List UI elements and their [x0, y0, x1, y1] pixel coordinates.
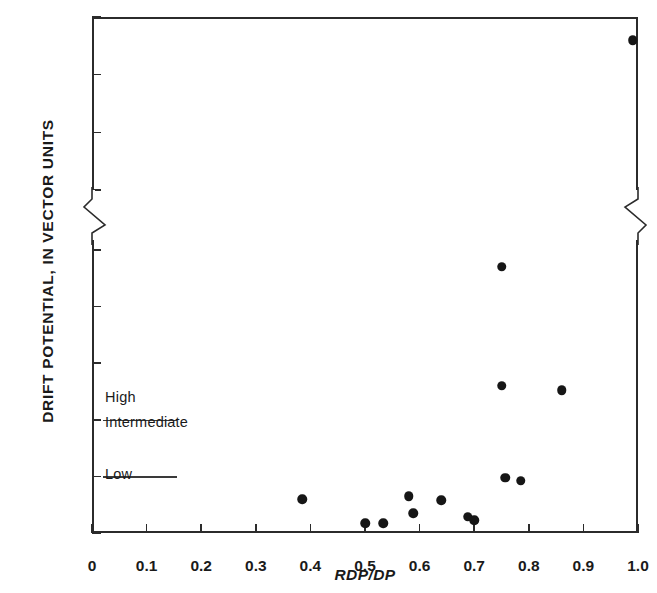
- data-point: [378, 518, 388, 528]
- x-tick: [91, 524, 93, 533]
- data-point: [437, 496, 447, 506]
- data-point: [516, 476, 526, 486]
- data-point: [628, 35, 638, 45]
- band-label-low: Low: [105, 466, 132, 482]
- data-point: [360, 518, 370, 528]
- data-point: [497, 262, 507, 272]
- x-tick: [473, 524, 475, 533]
- axis-top: [92, 17, 638, 19]
- data-point: [297, 494, 307, 504]
- x-tick: [200, 524, 202, 533]
- band-label-intermediate: Intermediate: [105, 414, 188, 430]
- data-point: [404, 491, 414, 501]
- axis-break-symbol-right: [621, 185, 647, 247]
- y-tick: [92, 249, 101, 251]
- data-point: [469, 516, 479, 526]
- x-tick: [583, 524, 585, 533]
- y-tick: [92, 16, 101, 18]
- axis-right: [636, 17, 638, 533]
- x-tick: [255, 524, 257, 533]
- x-tick: [528, 524, 530, 533]
- y-tick: [92, 532, 101, 534]
- plot-area: 020040060080010001500200025003000 00.10.…: [92, 17, 638, 533]
- x-tick: [419, 524, 421, 533]
- band-label-high: High: [105, 389, 136, 405]
- y-tick: [92, 306, 101, 308]
- x-axis-title: RDP/DP: [92, 566, 638, 584]
- y-tick: [92, 362, 101, 364]
- data-point: [557, 385, 567, 395]
- axis-left: [92, 17, 94, 533]
- y-tick: [92, 419, 101, 421]
- data-point: [408, 508, 418, 518]
- data-point: [497, 381, 507, 391]
- axis-break-symbol-left: [83, 185, 109, 247]
- x-tick: [146, 524, 148, 533]
- x-tick: [310, 524, 312, 533]
- x-tick: [637, 524, 639, 533]
- y-tick: [92, 476, 101, 478]
- y-tick: [92, 74, 101, 76]
- scatter-chart-figure: DRIFT POTENTIAL, IN VECTOR UNITS 0200400…: [0, 0, 657, 593]
- data-point: [501, 473, 511, 483]
- y-tick: [92, 132, 101, 134]
- y-axis-title: DRIFT POTENTIAL, IN VECTOR UNITS: [39, 11, 57, 531]
